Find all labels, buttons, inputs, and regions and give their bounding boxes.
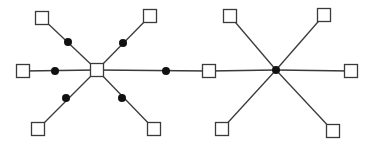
dot-node-L-dot-tl — [64, 38, 72, 46]
edge-R-center-R-r — [276, 70, 351, 71]
star-graph-diagram — [0, 0, 373, 149]
dot-node-L-dot-l — [51, 67, 59, 75]
dot-node-L-dot-br — [118, 94, 126, 102]
square-node-R-l — [203, 65, 216, 78]
dot-node-L-dot-bl — [62, 94, 70, 102]
square-node-L-tr — [144, 10, 157, 23]
square-node-L-l — [17, 65, 30, 78]
square-node-L-bl — [32, 123, 45, 136]
edge-L-center-L-l — [23, 70, 97, 71]
edge-R-center-R-tl — [230, 16, 276, 70]
edge-R-center-R-l — [209, 70, 276, 71]
edges-layer — [23, 15, 351, 131]
dot-node-L-dot-tr — [119, 39, 127, 47]
square-node-R-tl — [224, 10, 237, 23]
square-node-R-br — [327, 125, 340, 138]
edge-R-center-R-tr — [276, 15, 324, 70]
square-node-R-bl — [216, 123, 229, 136]
diagram-svg — [0, 0, 373, 149]
dot-node-bridge-dot — [162, 67, 170, 75]
square-node-L-center — [91, 64, 104, 77]
edge-L-center-R-l — [97, 70, 209, 71]
dot-node-R-center — [272, 66, 280, 74]
edge-R-center-R-bl — [222, 70, 276, 129]
nodes-layer — [17, 9, 358, 138]
square-node-L-br — [148, 123, 161, 136]
square-node-R-tr — [318, 9, 331, 22]
edge-R-center-R-br — [276, 70, 333, 131]
square-node-L-tl — [36, 12, 49, 25]
square-node-R-r — [345, 65, 358, 78]
